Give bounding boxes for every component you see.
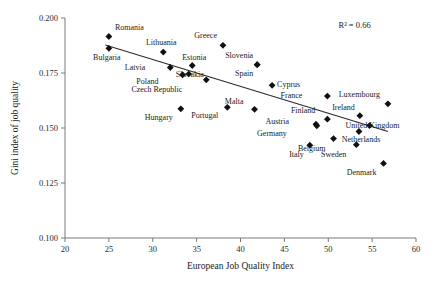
x-tick-label: 35	[192, 244, 201, 254]
data-point-label: Spain	[235, 69, 253, 78]
data-point-label: Denmark	[347, 168, 377, 177]
data-point-label: Netherlands	[342, 135, 381, 144]
x-tick-label: 20	[61, 244, 70, 254]
data-point-label: Malta	[225, 97, 244, 106]
x-tick-label: 50	[324, 244, 333, 254]
scatter-chart: 0.1000.1250.1500.1750.200202530354045505…	[0, 0, 433, 289]
x-tick-label: 45	[280, 244, 289, 254]
data-point-label: Ireland	[332, 103, 355, 112]
data-point-label: France	[281, 91, 303, 100]
data-point-label: Slovenia	[225, 51, 253, 60]
annotations: R² = 0.66	[339, 20, 371, 30]
data-point-label: United Kingdom	[345, 121, 400, 130]
x-tick-label: 30	[149, 244, 158, 254]
data-point-label: Austria	[265, 117, 289, 126]
data-point-label: Cyprus	[277, 80, 300, 89]
data-point-label: Latvia	[125, 63, 146, 72]
data-point-label: Slovakia	[176, 70, 204, 79]
data-point-label: Greece	[194, 31, 217, 40]
x-tick-label: 60	[412, 244, 421, 254]
x-axis-title: European Job Quality Index	[187, 261, 294, 271]
y-tick-label: 0.200	[39, 13, 58, 23]
data-point-label: Estonia	[182, 53, 206, 62]
y-tick-label: 0.125	[39, 178, 58, 188]
y-axis-title: Gini index of job quality	[10, 81, 20, 175]
x-tick-label: 40	[236, 244, 245, 254]
y-tick-label: 0.175	[39, 68, 58, 78]
data-point-label: Romania	[115, 23, 144, 32]
r-squared-annotation: R² = 0.66	[339, 20, 371, 30]
data-point-label: Lithuania	[146, 38, 177, 47]
data-point-label: Finland	[291, 106, 315, 115]
x-tick-label: 55	[368, 244, 377, 254]
data-point-label: Germany	[257, 129, 287, 138]
data-point-label: Hungary	[145, 113, 173, 122]
data-point-label: Portugal	[191, 111, 219, 120]
data-point-label: Czech Republic	[131, 85, 182, 94]
y-tick-label: 0.100	[39, 233, 58, 243]
data-point-label: Luxembourg	[339, 90, 380, 99]
x-tick-label: 25	[105, 244, 114, 254]
data-point-label: Sweden	[321, 150, 346, 159]
data-point-label: Bulgaria	[93, 53, 121, 62]
chart-canvas: 0.1000.1250.1500.1750.200202530354045505…	[0, 0, 433, 289]
y-tick-label: 0.150	[39, 123, 58, 133]
